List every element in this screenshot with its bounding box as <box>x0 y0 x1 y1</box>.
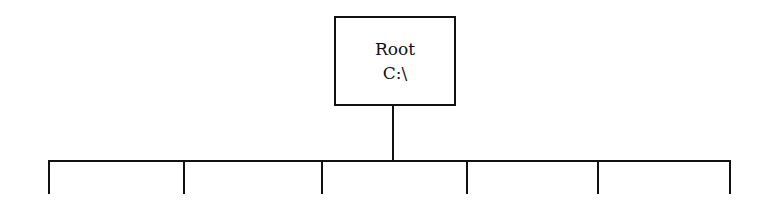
root-node-path: C:\ <box>383 61 407 85</box>
child-branch-1 <box>48 160 50 194</box>
child-branch-3 <box>321 160 323 194</box>
root-node-title: Root <box>375 37 415 61</box>
child-branch-6 <box>729 160 731 194</box>
root-node: Root C:\ <box>334 16 456 106</box>
child-branch-2 <box>183 160 185 194</box>
children-bus-line <box>48 160 731 162</box>
child-branch-4 <box>466 160 468 194</box>
child-branch-5 <box>597 160 599 194</box>
root-connector <box>392 105 394 161</box>
